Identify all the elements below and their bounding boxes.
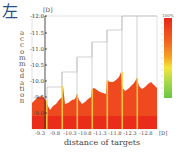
y-tick: -11.0 [30, 46, 45, 52]
colorbar-label: 100% [162, 13, 174, 18]
chart-plot: -12.0 -11.5 -11.0 -10.5 -10.0 -9.5 -9.0 … [0, 0, 184, 154]
x-tick: -12.8 [139, 130, 152, 136]
x-tick: -12.3 [123, 130, 136, 136]
y-tick: -12.0 [30, 13, 45, 19]
x-tick: -9.8 [50, 130, 60, 136]
x-tick: -11.8 [108, 130, 121, 136]
colorbar-legend: 100% [161, 13, 174, 98]
y-tick: -9.5 [33, 94, 44, 100]
x-tick: -10.8 [78, 130, 91, 136]
y-tick: -9.0 [33, 110, 44, 116]
x-tick: -11.3 [93, 130, 106, 136]
x-axis-label: distance of targets [0, 138, 184, 147]
y-tick: -10.0 [30, 78, 45, 84]
y-tick: -10.5 [30, 62, 45, 68]
x-tick: -9.3 [35, 130, 45, 136]
x-tick: -10.3 [63, 130, 76, 136]
x-unit: [D] [159, 130, 167, 136]
y-tick: -11.5 [30, 30, 45, 36]
